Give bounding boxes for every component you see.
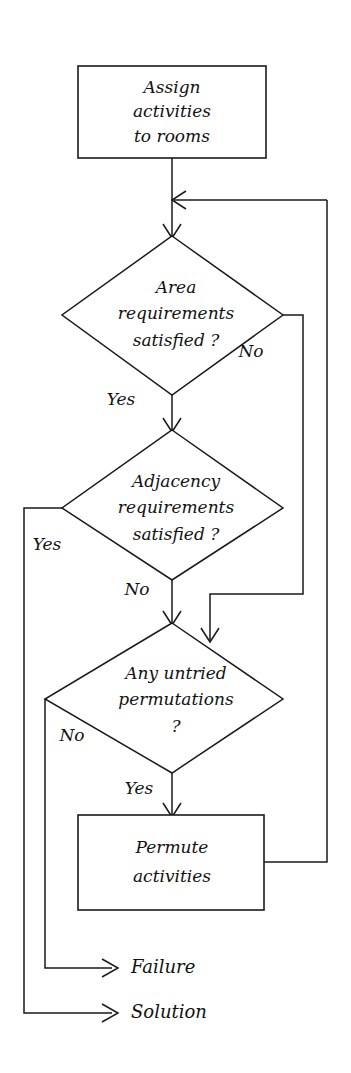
- node-adjacency-line-1: Adjacency: [130, 471, 221, 491]
- node-adjacency-line-2: requirements: [118, 497, 235, 517]
- node-permutations-line-1: Any untried: [123, 663, 227, 683]
- node-area-line-3: satisfied ?: [133, 330, 221, 350]
- terminal-label-solution: Solution: [131, 1001, 207, 1022]
- node-area-line-1: Area: [154, 277, 197, 297]
- node-assign-line-2: activities: [133, 101, 211, 121]
- node-area-line-2: requirements: [118, 303, 235, 323]
- edge-label-area-yes: Yes: [107, 389, 136, 409]
- edge-label-adjacency-no: No: [123, 579, 149, 599]
- edge-permute-to-feedback: [264, 200, 327, 862]
- flowchart-canvas: Assign activities to rooms Area requirem…: [0, 0, 351, 1073]
- node-assign-line-1: Assign: [142, 77, 201, 97]
- edge-label-permutations-no: No: [58, 725, 84, 745]
- node-adjacency-line-3: satisfied ?: [133, 524, 221, 544]
- terminal-label-failure: Failure: [130, 956, 195, 977]
- edge-label-area-no: No: [237, 341, 263, 361]
- edge-label-permutations-yes: Yes: [125, 778, 154, 798]
- node-permutations-line-2: permutations: [118, 689, 234, 709]
- edge-adjacency-yes-to-solution: [24, 508, 112, 1013]
- node-permutations-line-3: ?: [171, 716, 181, 736]
- edge-label-adjacency-yes: Yes: [33, 534, 62, 554]
- node-permute-activities: [78, 815, 264, 910]
- node-permute-line-1: Permute: [135, 837, 209, 857]
- node-permute-line-2: activities: [133, 866, 211, 886]
- node-assign-line-3: to rooms: [134, 126, 210, 146]
- flowchart-svg: Assign activities to rooms Area requirem…: [0, 0, 351, 1073]
